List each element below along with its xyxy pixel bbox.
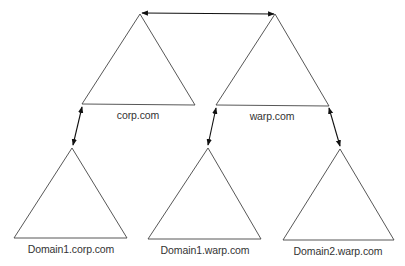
domain-trust-diagram (0, 0, 405, 266)
node-label-domain1-corp: Domain1.corp.com (28, 243, 115, 255)
trust-arrow-warp-domain1 (208, 108, 216, 145)
tree-domain1-corp-triangle (14, 148, 127, 238)
trust-arrow-corp-warp (142, 13, 274, 14)
tree-domain2-warp-triangle (283, 149, 394, 240)
node-label-corp: corp.com (117, 109, 159, 121)
node-label-domain1-warp: Domain1.warp.com (161, 244, 250, 256)
node-label-warp: warp.com (250, 110, 295, 122)
tree-corp-triangle (82, 14, 195, 105)
tree-domain1-warp-triangle (148, 148, 261, 239)
trust-arrow-corp-domain1 (73, 107, 82, 145)
tree-warp-triangle (216, 14, 329, 106)
trust-arrow-warp-domain2 (329, 108, 340, 146)
node-label-domain2-warp: Domain2.warp.com (294, 245, 383, 257)
